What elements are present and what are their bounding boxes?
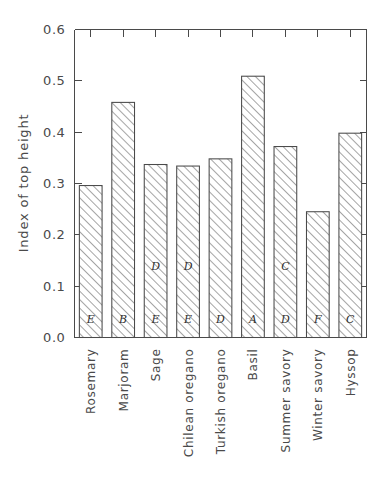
bar-letter-annotation: D <box>150 260 160 273</box>
x-axis-label: Rosemary <box>84 349 98 414</box>
y-tick-label: 0.5 <box>43 73 65 88</box>
bar-letter-annotation: C <box>281 260 290 273</box>
bar <box>339 133 362 337</box>
bar <box>274 147 297 338</box>
bar <box>209 159 232 338</box>
y-tick-label: 0.4 <box>43 125 65 140</box>
y-tick-label: 0.2 <box>43 227 65 242</box>
x-axis-label: Marjoram <box>117 349 131 412</box>
bar-letter-annotation: C <box>346 313 355 326</box>
bar-letter-annotation: D <box>280 313 290 326</box>
y-tick-label: 0.0 <box>43 330 65 345</box>
y-tick-label: 0.6 <box>43 22 65 37</box>
bar <box>112 102 135 337</box>
y-tick-label: 0.1 <box>43 279 65 294</box>
y-tick-label: 0.3 <box>43 176 65 191</box>
bar-letter-annotation: B <box>118 313 127 326</box>
x-axis-label: Turkish oregano <box>214 349 228 456</box>
bar-chart-figure: 0.00.10.20.30.40.50.6 EBDEDEDACDFC Rosem… <box>0 0 383 483</box>
bar-letter-annotation: A <box>248 313 257 326</box>
bar-letter-annotation: E <box>86 313 95 326</box>
bar <box>242 76 265 337</box>
bar-letter-annotation: E <box>183 313 192 326</box>
bar-letter-annotation: D <box>183 260 193 273</box>
x-axis-label: Basil <box>246 349 260 381</box>
x-axis-label: Chilean oregano <box>182 349 196 458</box>
chart-svg: 0.00.10.20.30.40.50.6 EBDEDEDACDFC Rosem… <box>0 0 383 483</box>
x-axis-label: Summer savory <box>279 349 293 453</box>
x-axis-label: Winter savory <box>311 349 325 442</box>
bar-letter-annotation: D <box>215 313 225 326</box>
bar-letter-annotation: E <box>151 313 160 326</box>
y-axis-title: Index of top height <box>16 114 31 253</box>
bar-letter-annotation: F <box>313 313 322 326</box>
x-axis-label: Hyssop <box>344 349 358 397</box>
x-axis-label: Sage <box>149 349 163 382</box>
